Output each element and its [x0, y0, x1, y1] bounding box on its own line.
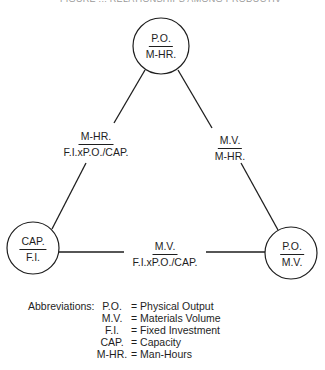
node-right-numerator: P.O.: [280, 240, 304, 255]
node-left-numerator: CAP.: [19, 235, 46, 250]
abbreviation-value: = Man-Hours: [131, 348, 192, 360]
abbreviation-value: = Capacity: [131, 336, 181, 348]
edge-top-right-label: M.V. M-HR.: [215, 134, 245, 163]
edge-top-left-denominator: F.I.xP.O./CAP.: [64, 145, 129, 159]
abbreviation-key: CAP.: [92, 336, 132, 348]
abbreviation-value: = Physical Output: [131, 300, 214, 312]
edge-left-right-numerator: M.V.: [153, 240, 178, 255]
edge-top-left-upper: [114, 70, 145, 123]
node-top-label: P.O. M-HR.: [146, 32, 176, 61]
abbreviation-key: M-HR.: [92, 348, 132, 360]
edge-top-right-upper: [178, 70, 212, 128]
edge-left-right-denominator: F.I.xP.O./CAP.: [133, 255, 198, 269]
edge-top-right-denominator: M-HR.: [215, 149, 245, 163]
edge-top-right-numerator: M.V.: [218, 134, 243, 149]
edge-top-left-lower: [52, 163, 86, 229]
node-top-denominator: M-HR.: [146, 47, 176, 61]
edge-top-right-lower: [241, 163, 278, 230]
node-right-denominator: M.V.: [282, 255, 303, 269]
abbreviation-key: M.V.: [92, 312, 132, 324]
abbreviation-key: F.I.: [92, 324, 132, 336]
node-left-label: CAP. F.I.: [19, 235, 46, 264]
edge-top-left-label: M-HR. F.I.xP.O./CAP.: [64, 130, 129, 159]
abbreviations-title: Abbreviations:: [28, 300, 95, 312]
abbreviation-value: = Fixed Investment: [131, 324, 220, 336]
node-right-label: P.O. M.V.: [280, 240, 304, 269]
edge-top-left-numerator: M-HR.: [79, 130, 113, 145]
abbreviation-value: = Materials Volume: [131, 312, 221, 324]
node-left-denominator: F.I.: [26, 250, 40, 264]
node-top-numerator: P.O.: [149, 32, 173, 47]
abbreviation-key: P.O.: [92, 300, 132, 312]
edge-left-right-label: M.V. F.I.xP.O./CAP.: [133, 240, 198, 269]
